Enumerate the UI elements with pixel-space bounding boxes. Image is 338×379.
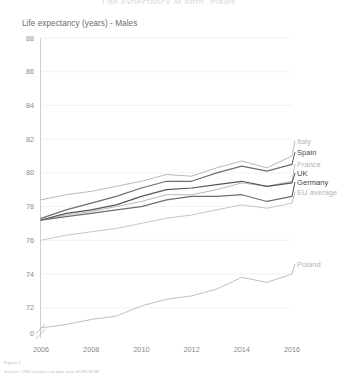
- x-axis-tick-label: 2014: [234, 345, 250, 354]
- legend-item-italy: Italy: [297, 138, 311, 146]
- x-axis-tick-label: 2012: [183, 345, 199, 354]
- series-line-germany: [41, 195, 292, 220]
- figure-label: Figure 1: [4, 360, 21, 365]
- data-series-group: [41, 156, 292, 328]
- series-line-france: [41, 181, 292, 220]
- legend-item-poland: Poland: [297, 261, 321, 269]
- y-axis-tick-label: 72: [26, 303, 34, 312]
- y-axis-tick-label: 84: [26, 101, 34, 110]
- y-axis-tick-label: 76: [26, 236, 34, 245]
- series-line-eu-average: [41, 203, 292, 240]
- y-axis-labels: 0727476788082848688: [26, 34, 34, 338]
- legend-item-germany: Germany: [297, 179, 328, 187]
- gridlines: [41, 38, 292, 308]
- y-axis-tick-label: 82: [26, 135, 34, 144]
- y-axis-tick-label: 86: [26, 67, 34, 76]
- x-axis-tick-label: 2010: [133, 345, 149, 354]
- line-chart-plot: 0727476788082848688 20062008201020122014…: [0, 0, 338, 379]
- x-axis-tick-label: 2006: [33, 345, 49, 354]
- y-axis-tick-label: 80: [26, 168, 34, 177]
- y-axis-tick-label: 88: [26, 34, 34, 43]
- legend-item-uk: UK: [297, 170, 308, 178]
- y-axis-tick-label: 74: [26, 270, 34, 279]
- y-axis-tick-label: 0: [30, 329, 34, 338]
- x-axis-labels: 200620082010201220142016: [33, 345, 300, 354]
- x-axis-tick-label: 2016: [284, 345, 300, 354]
- legend-leader-poland: [292, 264, 295, 274]
- figure-container: Life expectancy at birth, males Life exp…: [0, 0, 338, 379]
- legend-item-eu-average: EU average: [297, 189, 337, 197]
- y-axis-tick-label: 78: [26, 202, 34, 211]
- legend-item-france: France: [297, 161, 321, 169]
- source-note: Source: ONS analysis of data from EUROST…: [4, 369, 100, 374]
- legend-leader-lines: [292, 141, 295, 274]
- series-line-poland: [41, 274, 292, 328]
- legend-item-spain: Spain: [297, 149, 316, 157]
- series-line-uk: [41, 181, 292, 220]
- series-line-italy: [41, 156, 292, 200]
- x-axis-tick-label: 2008: [83, 345, 99, 354]
